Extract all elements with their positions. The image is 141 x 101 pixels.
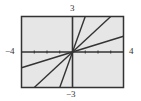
graph-plot xyxy=(0,0,141,101)
